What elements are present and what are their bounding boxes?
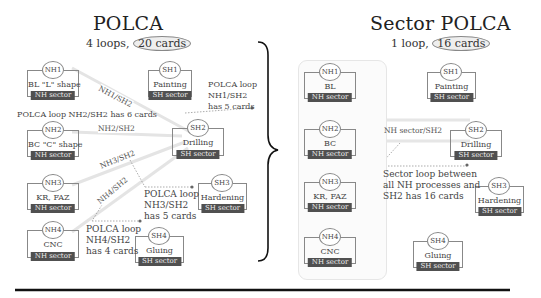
process-circle-icon: NH4 bbox=[319, 228, 341, 246]
process-circle-icon: SH4 bbox=[427, 232, 449, 250]
process-name: Drilling bbox=[173, 138, 223, 147]
process-circle-icon: SH3 bbox=[488, 177, 510, 195]
process-circle-icon: NH1 bbox=[42, 61, 64, 79]
polca-loop-count: 4 loops, bbox=[86, 37, 129, 50]
polca-subtitle: 4 loops, 20 cards bbox=[86, 36, 191, 51]
process-name: Hardening bbox=[199, 193, 246, 202]
sector-node-sh2: SH2 Drilling SH sector bbox=[450, 130, 502, 157]
sector-badge: SH sector bbox=[454, 151, 497, 160]
sector-badge: NH sector bbox=[308, 203, 352, 212]
sector-node-nh4: NH4 CNC NH sector bbox=[304, 237, 356, 264]
node-sh3: SH3 Hardening SH sector bbox=[198, 183, 247, 210]
process-circle-icon: NH3 bbox=[319, 173, 341, 191]
sector-node-nh2: NH2 BC NH sector bbox=[304, 129, 356, 156]
process-name: Drilling bbox=[451, 140, 501, 149]
node-nh4: NH4 CNC NH sector bbox=[27, 230, 79, 258]
process-circle-icon: SH2 bbox=[465, 121, 487, 139]
curly-brace-icon bbox=[258, 42, 278, 261]
sector-polca-title: Sector POLCA bbox=[370, 12, 510, 34]
process-name: Painting bbox=[428, 82, 475, 91]
sector-badge: SH sector bbox=[148, 91, 191, 100]
sector-node-sh1: SH1 Painting SH sector bbox=[427, 72, 476, 99]
sector-node-nh1: NH1 BL NH sector bbox=[304, 72, 356, 99]
process-circle-icon: SH1 bbox=[440, 63, 462, 81]
sector-node-nh3: NH3 KR, FAZ NH sector bbox=[304, 182, 356, 209]
node-sh2: SH2 Drilling SH sector bbox=[172, 128, 224, 156]
process-name: Painting bbox=[149, 80, 191, 89]
sector-badge: NH sector bbox=[308, 150, 352, 159]
sector-badge: NH sector bbox=[308, 93, 352, 102]
process-circle-icon: NH3 bbox=[42, 174, 64, 192]
sector-badge: NH sector bbox=[308, 258, 352, 267]
sector-badge: SH sector bbox=[176, 150, 219, 159]
sector-badge: SH sector bbox=[430, 93, 473, 102]
process-circle-icon: SH2 bbox=[187, 119, 209, 137]
sector-badge: SH sector bbox=[478, 207, 521, 216]
sector-badge: SH sector bbox=[201, 204, 244, 213]
process-circle-icon: NH1 bbox=[319, 63, 341, 81]
process-name: CNC bbox=[28, 240, 78, 249]
note-sector-loop: Sector loop between all NH processes and… bbox=[383, 169, 480, 202]
sector-card-count-pill: 16 cards bbox=[432, 36, 490, 51]
node-nh2: NH2 BC "C" shape NH sector bbox=[27, 130, 79, 157]
sector-loop-count: 1 loop, bbox=[391, 37, 429, 50]
node-nh3: NH3 KR, FAZ NH sector bbox=[27, 183, 79, 210]
process-name: BC bbox=[305, 139, 355, 148]
node-nh1: NH1 BL "L" shape NH sector bbox=[27, 70, 79, 97]
sector-badge: NH sector bbox=[31, 204, 75, 213]
loop-label-nh-sector-sh2: NH sector/SH2 bbox=[384, 126, 442, 135]
sector-polca-subtitle: 1 loop, 16 cards bbox=[391, 36, 490, 51]
process-name: KR, FAZ bbox=[305, 192, 355, 201]
polca-card-count-pill: 20 cards bbox=[133, 36, 191, 51]
process-circle-icon: NH4 bbox=[42, 221, 64, 239]
process-circle-icon: SH4 bbox=[148, 227, 170, 245]
note-nh3-sh2: POLCA loop NH3/SH2 has 5 cards bbox=[144, 189, 199, 222]
process-circle-icon: SH1 bbox=[159, 61, 181, 79]
process-name: BL bbox=[305, 82, 355, 91]
process-name: KR, FAZ bbox=[28, 193, 78, 202]
sector-badge: SH sector bbox=[138, 257, 181, 266]
sector-badge: SH sector bbox=[416, 262, 459, 271]
process-name: Gluing bbox=[414, 251, 462, 260]
process-name: BC "C" shape bbox=[28, 140, 78, 149]
process-circle-icon: SH3 bbox=[211, 174, 233, 192]
note-nh4-sh2: POLCA loop NH4/SH2 has 4 cards bbox=[86, 224, 141, 257]
process-name: Gluing bbox=[136, 246, 183, 255]
sector-node-sh3: SH3 Hardening SH sector bbox=[475, 186, 524, 213]
sector-badge: NH sector bbox=[31, 91, 75, 100]
polca-title: POLCA bbox=[78, 12, 178, 34]
note-nh2-sh2: POLCA loop NH2/SH2 has 6 cards bbox=[17, 109, 157, 120]
loop-label-nh2-sh2: NH2/SH2 bbox=[98, 124, 135, 133]
note-nh1-sh2: POLCA loop NH1/SH2 has 5 cards bbox=[208, 79, 257, 112]
process-name: CNC bbox=[305, 247, 355, 256]
node-sh4: SH4 Gluing SH sector bbox=[135, 236, 184, 263]
process-name: Hardening bbox=[476, 196, 523, 205]
process-circle-icon: NH2 bbox=[42, 121, 64, 139]
process-name: BL "L" shape bbox=[28, 80, 78, 89]
node-sh1: SH1 Painting SH sector bbox=[148, 70, 192, 97]
sector-badge: NH sector bbox=[31, 252, 75, 261]
process-circle-icon: NH2 bbox=[319, 120, 341, 138]
sector-node-sh4: SH4 Gluing SH sector bbox=[413, 241, 463, 268]
sector-badge: NH sector bbox=[31, 151, 75, 160]
